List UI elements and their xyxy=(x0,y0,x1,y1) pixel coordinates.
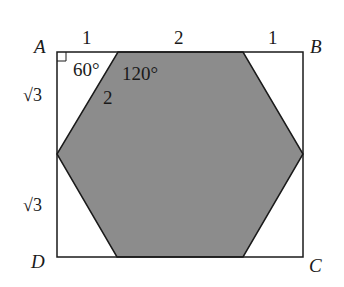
angle-label-120: 120° xyxy=(122,63,158,84)
geometry-diagram: A B C D 1 2 1 √3 √3 60° 120° 2 xyxy=(0,0,344,287)
left-segment-label-upper: √3 xyxy=(23,85,42,105)
hexagon xyxy=(57,52,303,257)
left-segment-label-lower: √3 xyxy=(23,195,42,215)
vertex-label-b: B xyxy=(310,36,322,57)
top-segment-label-left: 1 xyxy=(82,27,92,48)
angle-label-60: 60° xyxy=(73,59,100,80)
vertex-label-d: D xyxy=(30,251,45,272)
vertex-label-a: A xyxy=(32,36,46,57)
hexagon-side-label: 2 xyxy=(103,87,113,108)
top-segment-label-middle: 2 xyxy=(174,27,184,48)
right-angle-marker xyxy=(57,52,66,61)
vertex-label-c: C xyxy=(309,255,322,276)
top-segment-label-right: 1 xyxy=(268,27,278,48)
